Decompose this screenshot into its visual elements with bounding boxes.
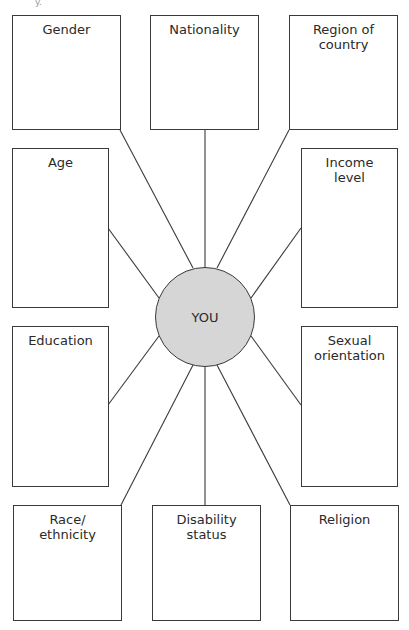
- box-sexual-orientation: Sexual orientation: [301, 326, 398, 487]
- box-education: Education: [12, 326, 109, 487]
- connector-race: [121, 365, 193, 505]
- box-label: Nationality: [151, 22, 258, 37]
- connector-age: [108, 228, 159, 298]
- connector-education: [108, 336, 159, 405]
- box-label: Race/ ethnicity: [14, 512, 121, 542]
- box-disability: Disability status: [152, 505, 261, 621]
- box-label: Education: [13, 333, 108, 348]
- box-region: Region of country: [289, 15, 398, 130]
- center-label: YOU: [192, 310, 219, 325]
- box-label: Gender: [13, 22, 120, 37]
- box-label: Region of country: [290, 22, 397, 52]
- box-income: Income level: [301, 148, 398, 308]
- connector-income: [251, 228, 301, 298]
- box-label: Disability status: [153, 512, 260, 542]
- box-nationality: Nationality: [150, 15, 259, 130]
- connector-region: [217, 130, 289, 268]
- connector-religion: [217, 365, 290, 505]
- box-label: Income level: [302, 155, 397, 185]
- box-race: Race/ ethnicity: [13, 505, 122, 621]
- box-age: Age: [12, 148, 109, 308]
- box-gender: Gender: [12, 15, 121, 130]
- center-you-circle: YOU: [155, 267, 255, 367]
- box-label: Religion: [291, 512, 398, 527]
- box-religion: Religion: [290, 505, 399, 621]
- connector-sexual-orientation: [251, 336, 301, 405]
- connector-gender: [120, 130, 193, 268]
- box-label: Age: [13, 155, 108, 170]
- box-label: Sexual orientation: [302, 333, 397, 363]
